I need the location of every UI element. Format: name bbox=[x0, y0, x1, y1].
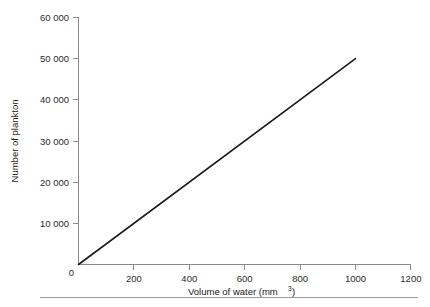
y-tick-label-60000: 60 000 bbox=[40, 12, 69, 23]
chart-figure: 60 000 50 000 40 000 30 000 20 000 10 00… bbox=[0, 0, 430, 307]
x-tick-label-1200: 1200 bbox=[400, 273, 421, 284]
y-tick-label-20000: 20 000 bbox=[40, 177, 69, 188]
y-tick-label-10000: 10 000 bbox=[40, 218, 69, 229]
line-chart-canvas: 60 000 50 000 40 000 30 000 20 000 10 00… bbox=[0, 0, 430, 307]
origin-label: 0 bbox=[69, 267, 74, 278]
x-tick-label-600: 600 bbox=[237, 273, 253, 284]
y-axis-title: Number of plankton bbox=[9, 100, 20, 183]
x-tick-label-800: 800 bbox=[292, 273, 308, 284]
y-tick-label-40000: 40 000 bbox=[40, 94, 69, 105]
x-tick-label-200: 200 bbox=[126, 273, 142, 284]
y-tick-label-50000: 50 000 bbox=[40, 53, 69, 64]
x-axis-title-suffix: ) bbox=[292, 286, 295, 297]
x-axis-title-main: Volume of water (mm bbox=[188, 286, 278, 297]
chart-background bbox=[0, 0, 430, 307]
x-tick-label-400: 400 bbox=[181, 273, 197, 284]
y-tick-label-30000: 30 000 bbox=[40, 136, 69, 147]
x-tick-label-1000: 1000 bbox=[345, 273, 366, 284]
